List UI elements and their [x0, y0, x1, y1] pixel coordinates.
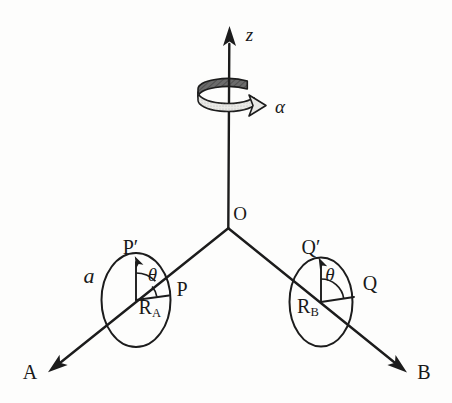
arm-B-label: B	[417, 361, 430, 383]
right-point-Q-label: Q	[363, 272, 378, 294]
diagram-svg: z α O A B P′ θ P R A a	[0, 0, 452, 403]
right-point-Q-prime-label: Q′	[302, 236, 321, 258]
arm-A-label: A	[23, 361, 38, 383]
right-radius-R-label: R	[297, 295, 311, 317]
left-radius-R-label: R	[139, 296, 153, 318]
z-axis-line	[228, 44, 229, 228]
left-radius-R-subscript: A	[152, 306, 161, 320]
left-point-P-label: P	[176, 278, 187, 300]
origin-label: O	[233, 203, 247, 224]
page-background	[0, 0, 452, 403]
left-theta-label: θ	[148, 264, 157, 285]
left-disc-radius-a-label: a	[84, 263, 95, 288]
right-theta-label: θ	[325, 264, 334, 285]
figure-canvas: z α O A B P′ θ P R A a	[0, 0, 452, 403]
left-point-P-prime-label: P′	[123, 236, 139, 258]
z-axis-label: z	[245, 24, 254, 45]
right-radius-R-subscript: B	[311, 305, 319, 319]
alpha-label: α	[275, 96, 286, 117]
